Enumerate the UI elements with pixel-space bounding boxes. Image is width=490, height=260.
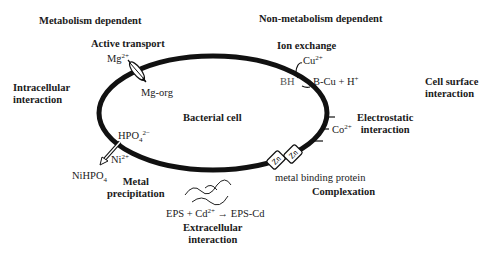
bh-label: BH (280, 76, 295, 88)
metal-precipitation-label: Metalprecipitation (107, 176, 165, 200)
ni-ion-label: Ni2+ (111, 154, 129, 166)
non-metabolism-dependent-label: Non-metabolism dependent (259, 13, 382, 25)
metal-binding-protein-label: metal binding protein (275, 172, 365, 184)
ion-exchange-label: Ion exchange (277, 40, 336, 52)
extracellular-interaction-label: Extracellularinteraction (183, 222, 242, 246)
metal-binding-protein-icon: Zn Zn (266, 144, 303, 170)
eps-strands-icon (185, 180, 231, 205)
cu-ion-label: Cu2+ (303, 55, 323, 67)
electrostatic-interaction-label: Electrostaticinteraction (357, 112, 413, 136)
co-ion-label: Co2+ (332, 124, 352, 136)
complexation-label: Complexation (312, 186, 375, 198)
active-transport-label: Active transport (91, 38, 165, 50)
bacterial-cell-label: Bacterial cell (183, 112, 242, 124)
hpo4-label: HPO42− (118, 130, 150, 142)
cell-surface-interaction-label: Cell surfaceinteraction (425, 76, 478, 100)
intracellular-interaction-label: Intracellularinteraction (13, 82, 70, 106)
transport-channel-icon (127, 60, 147, 82)
eps-reaction-label: EPS + Cd2+ → EPS-Cd (166, 208, 265, 220)
metabolism-dependent-label: Metabolism dependent (39, 15, 141, 27)
mg-ion-label: Mg2+ (107, 53, 129, 65)
diagram-canvas: Zn Zn (0, 0, 490, 260)
mg-org-label: Mg-org (141, 87, 173, 99)
b-cu-product-label: B-Cu + H+ (313, 76, 358, 88)
nihpo4-label: NiHPO4 (72, 170, 107, 182)
